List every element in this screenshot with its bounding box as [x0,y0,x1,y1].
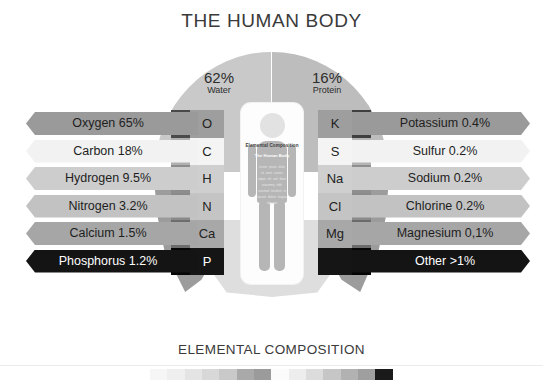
figure-head-icon [260,113,285,138]
element-labels-right: Potassium 0.4%Sulfur 0.2%Sodium 0.2%Chlo… [352,110,522,275]
element-symbol-k[interactable]: K [318,110,352,138]
element-row: Magnesium 0,1% [352,220,522,248]
element-row: Other >1% [352,248,522,276]
figure-leg-left [259,201,270,271]
element-symbol-cl[interactable]: Cl [318,193,352,221]
element-label-carbon[interactable]: Carbon 18% [26,140,198,163]
element-row: Oxygen 65% [26,110,190,138]
color-swatch-bar [150,369,393,380]
element-labels-left: Oxygen 65%Carbon 18%Hydrogen 9.5%Nitroge… [26,110,190,275]
element-symbol-other[interactable] [318,248,352,276]
element-row: Hydrogen 9.5% [26,165,190,193]
color-swatch [306,369,323,380]
element-symbol-na[interactable]: Na [318,165,352,193]
color-swatch [341,369,358,380]
element-label-chlorine[interactable]: Chlorine 0.2% [352,195,530,218]
element-row: Sulfur 0.2% [352,138,522,166]
element-label-nitrogen[interactable]: Nitrogen 3.2% [26,195,198,218]
footer-divider [0,365,543,366]
footer-caption: ELEMENTAL COMPOSITION [0,342,543,357]
infographic-canvas: THE HUMAN BODY 62% Water 16% Protein Min… [0,0,543,390]
donut-label-water: 62% Water [171,70,267,95]
color-swatch [289,369,306,380]
element-label-potassium[interactable]: Potassium 0.4% [352,112,530,135]
color-swatch [185,369,202,380]
color-swatch [323,369,340,380]
protein-label: Protein [279,86,375,95]
color-swatch [375,369,392,380]
color-swatch [271,369,288,380]
element-label-phosphorus[interactable]: Phosphorus 1.2% [26,250,198,273]
card-body-text: Lorem ipsum dolor sit amet consec adipis… [257,165,287,207]
element-label-calcium[interactable]: Calcium 1.5% [26,222,198,245]
element-row: Calcium 1.5% [26,220,190,248]
element-row: Chlorine 0.2% [352,193,522,221]
element-row: Nitrogen 3.2% [26,193,190,221]
water-label: Water [171,86,267,95]
water-percent: 62% [171,70,267,86]
color-swatch [150,369,167,380]
color-swatch [358,369,375,380]
color-swatch [254,369,271,380]
element-row: Carbon 18% [26,138,190,166]
element-label-other[interactable]: Other >1% [352,250,530,273]
element-symbols-right: KSNaClMg [318,110,352,275]
color-swatch [167,369,184,380]
donut-label-protein: 16% Protein [279,70,375,95]
element-row: Potassium 0.4% [352,110,522,138]
card-subtitle: The Human Body [241,153,303,158]
element-label-oxygen[interactable]: Oxygen 65% [26,112,198,135]
element-label-sodium[interactable]: Sodium 0.2% [352,167,530,190]
color-swatch [219,369,236,380]
element-label-sulfur[interactable]: Sulfur 0.2% [352,140,530,163]
human-body-icon [247,141,297,273]
element-label-hydrogen[interactable]: Hydrogen 9.5% [26,167,198,190]
element-row: Phosphorus 1.2% [26,248,190,276]
element-symbol-s[interactable]: S [318,138,352,166]
element-symbol-mg[interactable]: Mg [318,220,352,248]
card-title: Elemental Composition [241,143,303,148]
element-row: Sodium 0.2% [352,165,522,193]
element-label-magnesium[interactable]: Magnesium 0,1% [352,222,530,245]
color-swatch [202,369,219,380]
page-title: THE HUMAN BODY [0,10,543,32]
figure-leg-right [274,201,285,271]
protein-percent: 16% [279,70,375,86]
human-figure-card: Elemental Composition The Human Body Lor… [241,103,303,284]
color-swatch [237,369,254,380]
